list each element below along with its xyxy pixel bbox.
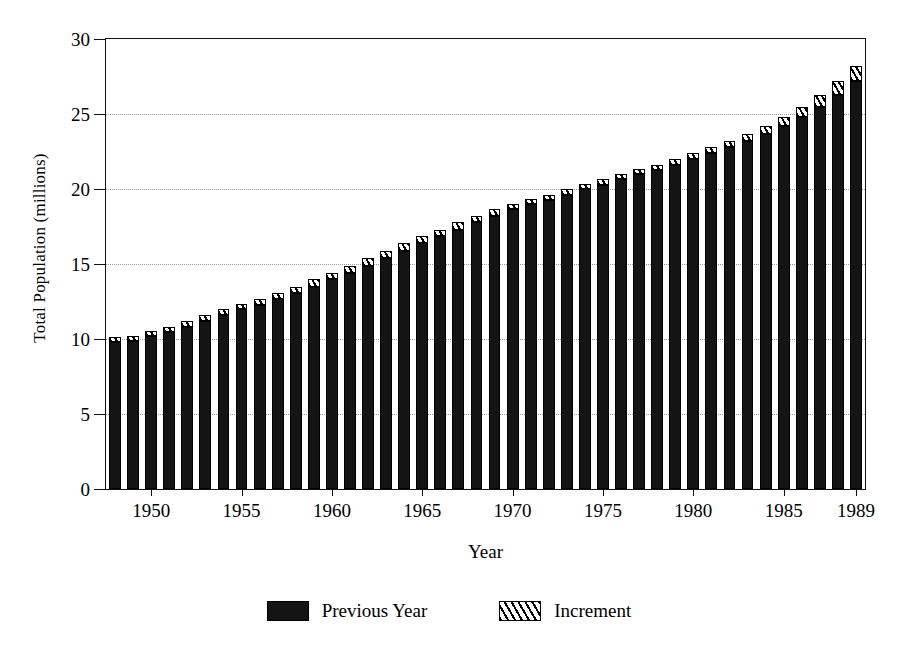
bar-segment-increment [109, 337, 121, 342]
bar-segment-increment [199, 315, 211, 321]
bar-1949 [127, 336, 139, 489]
bar-1968 [471, 216, 483, 489]
bar-segment-increment [145, 331, 157, 336]
x-axis-tick [603, 489, 604, 496]
bar-segment-previous-year [525, 204, 537, 489]
y-axis-tick [94, 114, 106, 115]
bar-segment-previous-year [109, 342, 121, 489]
bar-segment-previous-year [850, 81, 862, 489]
x-axis-tick-label: 1955 [202, 501, 282, 520]
bar-segment-increment [489, 209, 501, 217]
bar-1950 [145, 332, 157, 490]
bar-1988 [832, 81, 844, 489]
bar-segment-previous-year [254, 305, 266, 490]
bar-segment-previous-year [344, 273, 356, 489]
bar-1948 [109, 339, 121, 489]
bar-1969 [489, 209, 501, 490]
y-axis-tick [94, 39, 106, 40]
y-axis-tick-label: 15 [44, 255, 90, 274]
bar-segment-previous-year [615, 179, 627, 490]
bar-1954 [218, 309, 230, 489]
x-axis-title: Year [105, 541, 866, 563]
bar-1983 [742, 134, 754, 490]
bar-1978 [651, 165, 663, 489]
y-axis-tick [94, 189, 106, 190]
x-axis-tick-label: 1950 [111, 501, 191, 520]
bar-segment-increment [272, 293, 284, 299]
x-axis-tick [151, 489, 152, 496]
bar-1976 [615, 174, 627, 489]
bar-segment-increment [127, 336, 139, 341]
bar-segment-increment [163, 327, 175, 332]
bar-segment-increment [218, 309, 230, 315]
x-axis-tick-label: 1989 [816, 501, 896, 520]
bar-segment-increment [597, 179, 609, 185]
bar-1981 [705, 147, 717, 489]
bar-segment-previous-year [489, 216, 501, 489]
bar-segment-previous-year [308, 287, 320, 490]
bar-segment-increment [362, 258, 374, 266]
y-axis-tick-label: 30 [44, 30, 90, 49]
bar-1972 [543, 195, 555, 489]
bar-1952 [181, 321, 193, 489]
bar-segment-previous-year [561, 195, 573, 489]
bar-1982 [724, 141, 736, 489]
x-axis-tick [513, 489, 514, 496]
plot-area: 0510152025301950195519601965197019751980… [105, 38, 866, 490]
bar-segment-increment [850, 66, 862, 81]
bar-segment-previous-year [380, 258, 392, 489]
x-axis-tick-label: 1965 [382, 501, 462, 520]
bar-segment-previous-year [163, 332, 175, 490]
bar-1966 [434, 230, 446, 490]
x-axis-tick-label: 1985 [744, 501, 824, 520]
legend-swatch-hatch-icon [499, 601, 541, 621]
bar-1955 [236, 305, 248, 490]
bar-1980 [687, 153, 699, 489]
bar-1961 [344, 266, 356, 490]
bar-segment-previous-year [452, 230, 464, 490]
y-axis-tick [94, 489, 106, 490]
bar-segment-previous-year [633, 174, 645, 489]
bar-1984 [760, 126, 772, 489]
x-axis-tick [422, 489, 423, 496]
bar-1964 [398, 243, 410, 489]
bar-1957 [272, 293, 284, 490]
legend-label: Increment [554, 600, 631, 622]
bar-segment-previous-year [724, 147, 736, 489]
bar-segment-previous-year [579, 189, 591, 489]
legend-swatch-solid-icon [267, 601, 309, 621]
y-axis-title: Total Population (millions) [30, 98, 50, 398]
bar-1973 [561, 189, 573, 489]
y-axis-tick-label: 20 [44, 180, 90, 199]
bar-segment-previous-year [218, 315, 230, 489]
x-axis-tick [332, 489, 333, 496]
bar-segment-previous-year [362, 266, 374, 490]
y-axis-tick-label: 25 [44, 105, 90, 124]
bar-1989 [850, 66, 862, 489]
bar-segment-increment [344, 266, 356, 274]
bar-segment-previous-year [597, 185, 609, 490]
x-axis-tick [693, 489, 694, 496]
bar-1963 [380, 251, 392, 490]
bar-segment-increment [398, 243, 410, 251]
bar-segment-increment [326, 273, 338, 279]
bar-segment-previous-year [669, 165, 681, 489]
bar-segment-previous-year [236, 309, 248, 489]
bar-segment-previous-year [434, 236, 446, 490]
bar-segment-increment [236, 304, 248, 309]
bar-segment-previous-year [127, 341, 139, 490]
bar-segment-previous-year [796, 117, 808, 489]
bar-segment-increment [471, 216, 483, 222]
legend-item-increment: Increment [499, 600, 631, 622]
bar-segment-increment [651, 165, 663, 170]
bar-1974 [579, 185, 591, 490]
y-axis-tick-label: 10 [44, 330, 90, 349]
y-axis-tick [94, 414, 106, 415]
y-axis-tick-label: 0 [44, 480, 90, 499]
bar-segment-increment [308, 279, 320, 287]
bar-segment-previous-year [814, 107, 826, 490]
bar-segment-previous-year [181, 327, 193, 489]
legend-item-previous-year: Previous Year [267, 600, 428, 622]
bar-1977 [633, 170, 645, 490]
bar-segment-increment [724, 141, 736, 147]
